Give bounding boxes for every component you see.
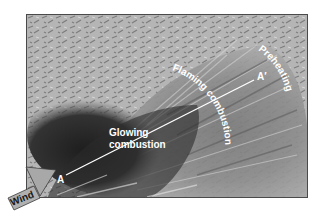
label-point-a-prime: A′ [257,71,267,82]
annotation-layer: Preheating Flaming combustion Glowing co… [0,0,319,224]
label-point-a: A [57,174,64,185]
label-flaming-combustion: Flaming combustion [171,62,234,146]
label-combustion: combustion [109,139,166,150]
figure-canvas: Preheating Flaming combustion Glowing co… [0,0,319,224]
label-glowing: Glowing [109,127,148,138]
label-preheating: Preheating [257,43,296,93]
